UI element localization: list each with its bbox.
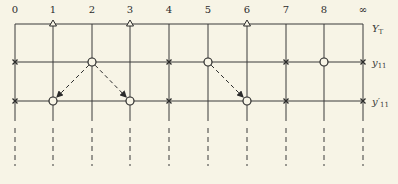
- triangle-marker: [244, 20, 251, 26]
- circle-marker: [88, 58, 96, 66]
- row-label-y11p: y′11: [371, 96, 389, 109]
- circle-marker: [49, 97, 57, 105]
- column-labels: 012345678∞: [12, 4, 367, 15]
- column-label-9: ∞: [359, 4, 367, 15]
- column-label-4: 4: [166, 4, 172, 15]
- circle-marker: [320, 58, 328, 66]
- column-label-5: 5: [205, 4, 211, 15]
- column-label-7: 7: [283, 4, 289, 15]
- column-label-6: 6: [244, 4, 250, 15]
- grid-lines: [15, 24, 363, 121]
- circle-marker: [126, 97, 134, 105]
- circle-marker: [204, 58, 212, 66]
- arrows: [57, 65, 243, 97]
- triangle-marker: [127, 20, 134, 26]
- column-label-8: 8: [321, 4, 327, 15]
- pole-zero-ladder-diagram: 012345678∞ YTy11y′11: [0, 0, 398, 184]
- arrow-2: [211, 65, 243, 97]
- column-label-0: 0: [12, 4, 18, 15]
- row-label-YT: YT: [372, 23, 384, 36]
- column-label-2: 2: [89, 4, 95, 15]
- arrow-1: [95, 65, 126, 97]
- column-label-1: 1: [50, 4, 56, 15]
- row-labels: YTy11y′11: [371, 23, 389, 109]
- circle-marker: [243, 97, 251, 105]
- column-label-3: 3: [127, 4, 133, 15]
- triangle-marker: [50, 20, 57, 26]
- dashed-extensions: [15, 128, 363, 166]
- arrow-0: [57, 65, 89, 97]
- row-label-y11: y11: [371, 57, 387, 70]
